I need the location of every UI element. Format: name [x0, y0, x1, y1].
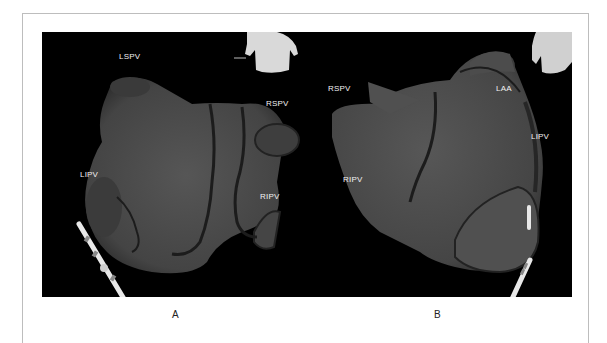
caption-b: B [434, 309, 441, 320]
torso-orientation-icon [234, 32, 298, 73]
panel-b-image: RSPV LAA LIPV RIPV [320, 32, 572, 297]
left-atrium-render-a [42, 32, 320, 297]
label-ripv: RIPV [343, 175, 362, 184]
torso-orientation-icon [532, 32, 572, 74]
label-rspv: RSPV [266, 99, 289, 108]
label-lspv: LSPV [119, 52, 140, 61]
label-rspv: RSPV [328, 84, 351, 93]
left-atrium-render-b [320, 32, 572, 297]
label-laa: LAA [496, 84, 512, 93]
label-lipv: LIPV [80, 170, 98, 179]
caption-a: A [172, 309, 179, 320]
label-ripv: RIPV [260, 192, 279, 201]
label-lipv: LIPV [531, 132, 549, 141]
panel-a-image: LSPV RSPV LIPV RIPV [42, 32, 320, 297]
